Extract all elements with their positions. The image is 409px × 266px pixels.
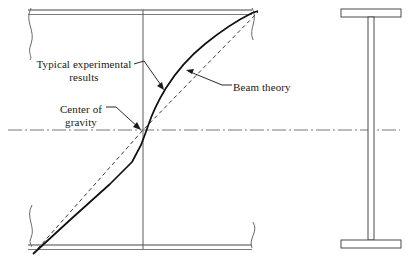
beam-top-boundary [28, 10, 252, 15]
label-typical-experimental-results: Typical experimental results [28, 58, 140, 84]
experimental-results-curve [33, 11, 258, 254]
label-experimental-line1: Typical experimental [37, 58, 132, 70]
i-beam-cross-section [341, 9, 401, 248]
label-center-of-gravity: Center of gravity [41, 103, 121, 129]
arrowhead-experimental [157, 82, 164, 90]
beam-bottom-boundary [28, 245, 252, 250]
label-beam-theory: Beam theory [233, 81, 291, 94]
break-line-bottom-left [30, 205, 33, 247]
diagram-canvas [0, 0, 409, 266]
break-line-bottom-right [251, 222, 255, 248]
i-beam-web [368, 17, 374, 240]
label-center-of-gravity-line1: Center of [60, 103, 102, 115]
label-center-of-gravity-line2: gravity [41, 116, 121, 129]
shear-stress-diagram: Typical experimental results Center of g… [0, 0, 409, 266]
i-beam-top-flange [341, 9, 401, 17]
leader-beam-theory [186, 69, 232, 85]
i-beam-bottom-flange [341, 240, 401, 248]
break-line-top-left [29, 8, 33, 60]
label-experimental-line2: results [28, 71, 140, 84]
